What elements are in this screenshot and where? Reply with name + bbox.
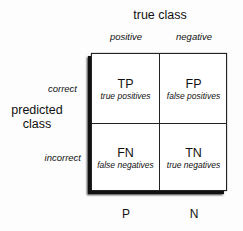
cell-text: false negatives: [92, 160, 159, 171]
row-axis-title-line1: predicted: [2, 103, 72, 117]
row-header-incorrect: incorrect: [20, 152, 81, 163]
cell-text: false positives: [160, 91, 227, 102]
cell-true-positive: TP true positives: [92, 78, 159, 147]
cell-text: true negatives: [160, 160, 227, 171]
cell-abbr: FN: [92, 147, 159, 160]
cell-abbr: FP: [160, 78, 227, 91]
cell-abbr: TP: [92, 78, 159, 91]
column-footer-p: P: [92, 207, 160, 221]
column-footer-n: N: [160, 207, 228, 221]
row-axis-title-line2: class: [2, 117, 72, 131]
column-header-positive: positive: [92, 31, 160, 42]
confusion-matrix: TP true positives FP false positives FN …: [91, 53, 227, 191]
row-header-correct: correct: [20, 83, 77, 94]
cell-false-negative: FN false negatives: [92, 147, 159, 216]
column-header-negative: negative: [160, 31, 228, 42]
cell-true-negative: TN true negatives: [160, 147, 227, 216]
cell-false-positive: FP false positives: [160, 78, 227, 147]
column-axis-title: true class: [120, 8, 200, 22]
cell-abbr: TN: [160, 147, 227, 160]
cell-text: true positives: [92, 91, 159, 102]
row-axis-title: predicted class: [2, 103, 72, 131]
